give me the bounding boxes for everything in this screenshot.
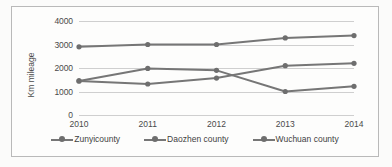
x-axis-tick-label: 2011 [139, 119, 157, 129]
data-point [214, 76, 219, 81]
y-axis-title-label: Km mileage [26, 53, 36, 98]
data-point [214, 68, 219, 73]
data-point [145, 42, 150, 47]
legend-item-label: Zunyicounty [74, 134, 120, 144]
legend-item[interactable]: Zunyicounty [51, 134, 120, 144]
data-point [283, 89, 288, 94]
data-point [76, 44, 81, 49]
series-1 [76, 33, 356, 49]
plot-area: 40003000200010000 [79, 21, 354, 115]
data-point [214, 42, 219, 47]
data-point [351, 61, 356, 66]
gridline [79, 115, 354, 116]
chart-figure: Km mileage 40003000200010000 20102011201… [11, 6, 379, 157]
y-axis-tick-label: 4000 [54, 16, 73, 26]
y-axis-tick-label: 1000 [54, 87, 73, 97]
x-axis-tick-label: 2010 [70, 119, 89, 129]
series-container [79, 21, 354, 115]
data-point [145, 81, 150, 86]
data-point [283, 35, 288, 40]
x-axis-tick-label: 2013 [276, 119, 295, 129]
x-axis-tick-label: 2012 [207, 119, 226, 129]
legend-marker-icon [253, 135, 275, 143]
y-axis-tick-label: 3000 [54, 40, 73, 50]
legend-item[interactable]: Wuchuan county [253, 134, 339, 144]
legend-item[interactable]: Daozhen county [144, 134, 228, 144]
data-point [145, 66, 150, 71]
data-point [76, 78, 81, 83]
legend-item-label: Daozhen county [167, 134, 228, 144]
legend-marker-icon [51, 135, 73, 143]
y-axis-tick-label: 2000 [54, 63, 73, 73]
data-point [283, 63, 288, 68]
y-axis-title: Km mileage [24, 35, 38, 115]
legend-item-label: Wuchuan county [276, 134, 339, 144]
data-point [351, 84, 356, 89]
chart-legend: ZunyicountyDaozhen countyWuchuan county [12, 134, 378, 144]
x-axis-tick-label: 2014 [345, 119, 364, 129]
x-axis-ticks: 20102011201220132014 [79, 119, 354, 131]
data-point [351, 33, 356, 38]
legend-marker-icon [144, 135, 166, 143]
